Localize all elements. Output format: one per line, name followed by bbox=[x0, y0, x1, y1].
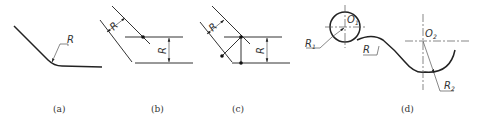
panel-d: O1 R1 R O2 R2 (d) bbox=[305, 5, 470, 114]
slant-radius-label-c: R bbox=[206, 21, 219, 34]
panel-c: R R (c) bbox=[200, 6, 290, 114]
slant-line-upper bbox=[112, 6, 150, 44]
caption-b: (b) bbox=[151, 104, 164, 114]
caption-d: (d) bbox=[401, 104, 414, 114]
radius-label-a: R bbox=[67, 34, 74, 45]
horizontal-radius-label-b: R bbox=[157, 47, 168, 54]
panel-a: R (a) bbox=[14, 26, 102, 114]
tangent-point-slant bbox=[220, 54, 224, 58]
arc-center-dot bbox=[239, 35, 243, 39]
horizontal-radius-label-c: R bbox=[255, 47, 266, 54]
rounded-corner-line bbox=[14, 26, 102, 67]
caption-c: (c) bbox=[232, 104, 244, 114]
intersection-center-dot bbox=[141, 35, 145, 39]
radius-label-r2: R2 bbox=[444, 80, 455, 92]
perpendicular-to-slant bbox=[222, 37, 241, 56]
center-label-o1: O1 bbox=[347, 14, 359, 26]
center-label-o2: O2 bbox=[425, 28, 437, 40]
caption-a: (a) bbox=[53, 104, 65, 114]
radius-label-connect: R bbox=[363, 44, 370, 55]
arc-connection-diagram: R (a) R R (b) R R (c) O1 bbox=[0, 0, 485, 126]
panel-b: R R (b) bbox=[100, 6, 193, 114]
radius-arrow-a bbox=[52, 44, 60, 62]
radius-arrow-r1 bbox=[332, 28, 344, 37]
radius-label-r1: R1 bbox=[305, 38, 316, 50]
radius-arrow-r2 bbox=[423, 41, 434, 73]
tangent-point-horizontal bbox=[239, 61, 243, 65]
connecting-s-curve bbox=[357, 37, 455, 73]
